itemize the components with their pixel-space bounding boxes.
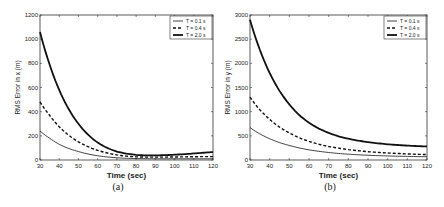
y-tick-label: 1000 (25, 36, 39, 42)
y-tick-label: 1200 (25, 12, 39, 18)
y-tick-label: 600 (28, 85, 39, 91)
y-tick-label: 3000 (235, 12, 249, 18)
x-tick-label: 100 (383, 163, 394, 169)
y-tick-label: 800 (28, 60, 39, 66)
x-tick-label: 110 (189, 163, 199, 169)
y-tick-label: 1500 (235, 85, 249, 91)
legend: T = 0.1 sT = 0.4 sT = 2.0 s (384, 16, 426, 39)
panel-caption: (a) (112, 181, 123, 193)
x-axis-label: Time (sec) (319, 171, 359, 180)
legend-label: T = 0.1 s (186, 18, 206, 24)
x-tick-label: 100 (170, 163, 181, 169)
x-tick-label: 110 (403, 163, 413, 169)
y-tick-label: 2000 (235, 60, 249, 66)
figure: 3040506070809010011012002004006008001000… (0, 0, 444, 207)
y-axis-label: RMS Error in y (m) (224, 60, 232, 114)
x-tick-label: 120 (208, 163, 219, 169)
x-tick-label: 70 (325, 163, 332, 169)
x-tick-label: 40 (56, 163, 63, 169)
x-tick-label: 30 (37, 163, 44, 169)
series-line (40, 102, 213, 157)
legend-label: T = 2.0 s (400, 32, 420, 38)
legend-label: T = 0.4 s (400, 25, 420, 31)
x-tick-label: 60 (306, 163, 313, 169)
x-tick-label: 50 (75, 163, 82, 169)
x-tick-label: 50 (286, 163, 293, 169)
x-tick-label: 70 (114, 163, 121, 169)
legend-label: T = 2.0 s (186, 32, 206, 38)
y-tick-label: 2500 (235, 36, 249, 42)
y-tick-label: 1000 (235, 109, 249, 115)
x-tick-label: 90 (152, 163, 159, 169)
legend-label: T = 0.1 s (400, 18, 420, 24)
legend-label: T = 0.4 s (186, 25, 206, 31)
x-tick-label: 120 (422, 163, 433, 169)
x-axis-label: Time (sec) (107, 171, 147, 180)
x-tick-label: 30 (247, 163, 254, 169)
y-tick-label: 400 (28, 109, 39, 115)
x-tick-label: 80 (345, 163, 352, 169)
x-tick-label: 80 (133, 163, 140, 169)
x-tick-label: 40 (266, 163, 273, 169)
chart-panel-a: 3040506070809010011012002004006008001000… (14, 12, 219, 193)
x-tick-label: 60 (94, 163, 101, 169)
panel-caption: (b) (324, 181, 336, 193)
y-tick-label: 500 (238, 133, 249, 139)
x-tick-label: 90 (365, 163, 372, 169)
series-line (40, 32, 213, 155)
legend: T = 0.1 sT = 0.4 sT = 2.0 s (170, 16, 212, 39)
y-axis-label: RMS Error in x (m) (14, 60, 22, 114)
y-tick-label: 200 (28, 133, 39, 139)
chart-panel-b: 3040506070809010011012005001000150020002… (224, 12, 433, 193)
series-line (250, 128, 427, 157)
